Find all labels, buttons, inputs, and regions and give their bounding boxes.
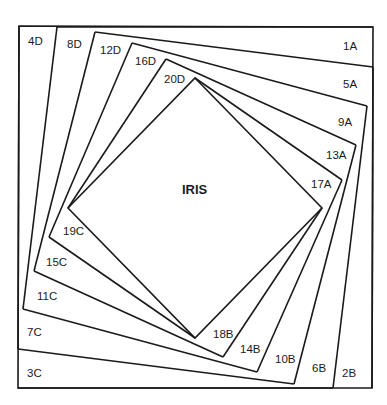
piece-label: 14B (240, 343, 261, 355)
piece-label: 8D (67, 38, 82, 50)
piece-label: 12D (100, 44, 121, 56)
center-square (68, 78, 322, 338)
outer-square (18, 26, 373, 388)
piece-label: 11C (37, 290, 57, 302)
piece-label: 6B (312, 362, 326, 374)
seam-line (49, 43, 132, 237)
piece-label: 18B (213, 328, 234, 340)
seam-line (372, 67, 373, 388)
piece-label: 16D (135, 55, 156, 67)
seam-line (34, 271, 223, 357)
piece-label: 7C (27, 326, 42, 338)
seam-line (166, 59, 356, 145)
piece-label: 19C (63, 225, 84, 237)
piece-label: 1A (343, 40, 357, 52)
piece-label: 13A (326, 149, 347, 161)
seam-line (257, 180, 342, 372)
piece-label: 4D (28, 35, 43, 47)
piece-label: 15C (46, 256, 67, 268)
seam-line (18, 26, 19, 349)
center-label: IRIS (182, 182, 208, 197)
piece-label: 10B (275, 353, 296, 365)
piece-label: 2B (342, 367, 356, 379)
piece-label: 20D (164, 73, 185, 85)
piece-label: 9A (338, 116, 352, 128)
piece-label: 3C (27, 367, 42, 379)
piece-label: 17A (311, 178, 332, 190)
piece-label: 5A (343, 78, 357, 90)
iris-block-diagram: 1A5A9A13A17A2B6B10B14B18B3C7C11C15C19C4D… (0, 0, 387, 405)
